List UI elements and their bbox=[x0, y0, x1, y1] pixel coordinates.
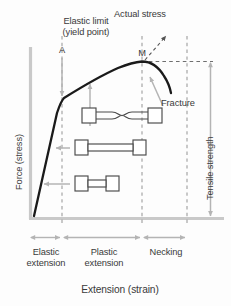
tensile-strength-label: Tensile strength bbox=[205, 136, 216, 200]
necked-specimen bbox=[82, 108, 162, 123]
guide-lines bbox=[62, 36, 213, 226]
stress-strain-curve bbox=[34, 62, 171, 217]
point-m-label: M bbox=[132, 48, 152, 59]
fracture-label: Fracture bbox=[161, 98, 195, 109]
unstretched-specimen bbox=[75, 176, 119, 191]
axes bbox=[29, 47, 224, 219]
region-label-necking: Necking bbox=[138, 247, 194, 258]
region-label-plastic-extension: Plastic extension bbox=[68, 247, 140, 268]
stress-strain-figure: Elastic limit (yield point) A M Actual s… bbox=[0, 0, 231, 306]
y-axis-title: Force (stress) bbox=[14, 134, 25, 190]
point-a-label: A bbox=[52, 45, 72, 56]
elongated-specimen bbox=[75, 140, 146, 155]
actual-stress-label: Actual stress bbox=[114, 9, 166, 20]
x-axis-title: Extension (strain) bbox=[35, 285, 205, 296]
